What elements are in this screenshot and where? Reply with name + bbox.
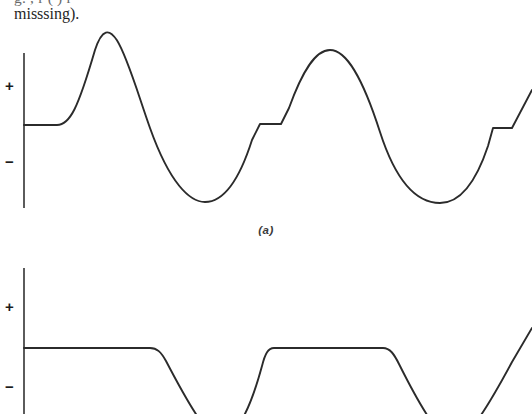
- figure-panel-b: + −: [0, 262, 532, 414]
- panel-b-waveform-path: [24, 328, 532, 414]
- panel-a-caption: (a): [0, 224, 532, 236]
- scanned-figure-page: g. , r ( ) r misssing). + − (a) + −: [0, 0, 532, 414]
- figure-panel-a: + − (a): [0, 36, 532, 216]
- panel-a-waveform-path: [24, 32, 532, 203]
- panel-a-waveform-svg: [0, 36, 532, 216]
- body-text-line: misssing).: [14, 5, 79, 22]
- panel-b-waveform-svg: [0, 262, 532, 414]
